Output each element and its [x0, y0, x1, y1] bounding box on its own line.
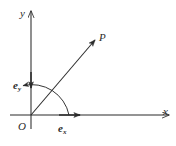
angle-arc	[23, 85, 69, 115]
unit-vector-ey-subscript: y	[18, 85, 21, 93]
coordinate-diagram-figure: y x P O ey ex	[0, 0, 176, 146]
y-axis-label: y	[20, 8, 25, 19]
unit-vector-ex-subscript: x	[63, 128, 67, 136]
coordinate-diagram-canvas	[0, 0, 176, 146]
origin-label: O	[18, 121, 26, 132]
unit-vector-ey-label: ey	[13, 80, 21, 91]
unit-vector-ex-label: ex	[58, 123, 66, 134]
ray-to-point-p	[31, 40, 95, 115]
x-axis-label: x	[163, 106, 168, 117]
point-p-label: P	[99, 32, 106, 43]
